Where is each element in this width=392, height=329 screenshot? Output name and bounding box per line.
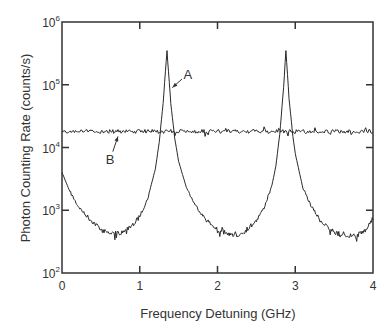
y-tick-label: 106 [42,14,60,30]
annotation-label-a: A [184,67,193,82]
annotations: AB [106,67,193,168]
x-axis-title: Frequency Detuning (GHz) [140,306,295,321]
y-axis-title: Photon Counting Rate (counts/s) [18,54,33,243]
plot-frame [62,22,373,273]
x-tick-label: 4 [370,279,377,293]
annotation-label-b: B [106,152,115,167]
x-tick-label: 0 [59,279,66,293]
x-tick-label: 2 [214,279,221,293]
chart: 102103104105106 01234 AB Frequency Detun… [0,0,392,329]
y-axis-ticks: 102103104105106 [42,14,373,281]
x-tick-label: 1 [136,279,143,293]
arrow-head-icon [114,136,118,141]
y-tick-label: 104 [42,140,60,156]
series-b-line [62,127,373,137]
x-tick-label: 3 [292,279,299,293]
y-tick-label: 103 [42,202,60,218]
series-a-line [62,51,373,242]
y-tick-label: 105 [42,77,60,93]
